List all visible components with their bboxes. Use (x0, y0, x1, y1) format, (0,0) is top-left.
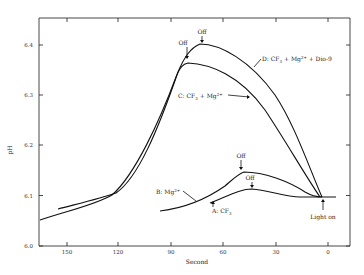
svg-text:B: Mg2+: B: Mg2+ (156, 188, 180, 197)
ph-time-chart: 6.06.16.26.36.4 1501209060300 pH Second … (0, 0, 364, 275)
svg-text:Off: Off (236, 152, 246, 159)
curve-c (40, 63, 320, 220)
off-annotation-d: Off (197, 28, 207, 43)
svg-text:Light on: Light on (310, 213, 336, 221)
x-tick-label: 60 (220, 249, 227, 255)
x-axis-label: Second (186, 258, 208, 265)
svg-text:D: CF3 + Mg2+ + Dio-9: D: CF3 + Mg2+ + Dio-9 (262, 55, 332, 64)
x-tick-label: 0 (326, 249, 330, 255)
off-annotation-a: Off (245, 174, 255, 188)
x-tick-label: 30 (273, 249, 280, 255)
label-b: B: Mg2+ (156, 188, 196, 202)
y-tick-label: 6.3 (24, 92, 33, 98)
y-tick-label: 6.0 (24, 243, 33, 249)
svg-text:Off: Off (245, 174, 255, 181)
svg-text:A: CF3: A: CF3 (211, 207, 232, 216)
x-tick-label: 90 (168, 249, 175, 255)
y-tick-label: 6.1 (24, 193, 33, 199)
off-annotation-c: Off (178, 39, 189, 59)
x-axis: 1501209060300 (62, 18, 331, 255)
plot-frame (39, 18, 350, 246)
label-d: D: CF3 + Mg2+ + Dio-9 (254, 55, 332, 68)
y-axis-label: pH (6, 145, 14, 154)
light-on-annotation: Light on (310, 199, 336, 221)
x-tick-label: 120 (113, 249, 124, 255)
curve-d (58, 44, 322, 209)
curve-a (210, 189, 322, 203)
svg-text:Off: Off (178, 39, 188, 46)
y-tick-label: 6.2 (24, 142, 33, 148)
y-tick-label: 6.4 (24, 42, 33, 48)
label-c: C: CF3 + Mg2+ (178, 92, 250, 101)
svg-text:Off: Off (197, 28, 207, 35)
x-tick-label: 150 (62, 249, 73, 255)
svg-text:C: CF3 + Mg2+: C: CF3 + Mg2+ (178, 92, 223, 101)
off-annotation-b: Off (236, 152, 246, 170)
label-a: A: CF3 (211, 201, 232, 216)
